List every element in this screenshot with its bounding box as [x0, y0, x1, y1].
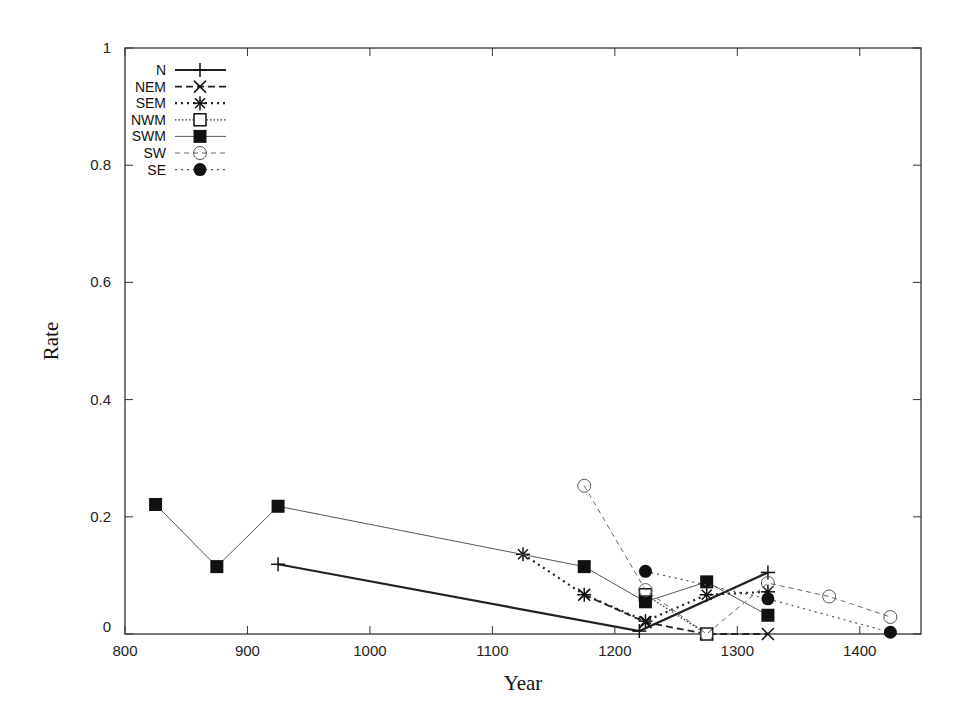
legend-label: NWM — [131, 112, 166, 128]
data-point — [761, 609, 774, 622]
data-point — [884, 611, 897, 624]
data-point — [272, 500, 285, 513]
legend-item-sem: SEM — [136, 95, 226, 111]
data-point — [823, 590, 836, 603]
series-line — [278, 564, 768, 631]
data-point — [639, 595, 652, 608]
y-tick-label: 0.4 — [90, 391, 111, 408]
legend-label: SW — [143, 145, 166, 161]
legend-marker — [194, 114, 206, 126]
x-tick-label: 1100 — [476, 642, 508, 659]
y-tick-label: 0.6 — [90, 273, 111, 290]
legend-item-n: N — [156, 62, 226, 78]
legend-marker — [194, 163, 207, 176]
data-point — [639, 565, 652, 578]
data-point — [701, 628, 713, 640]
data-point — [271, 557, 285, 571]
y-axis-title: Rate — [39, 322, 63, 360]
x-tick-label: 1200 — [598, 642, 631, 659]
x-tick-label: 1300 — [721, 642, 754, 659]
series-sw — [578, 479, 897, 640]
y-tick-label: 0 — [103, 618, 111, 635]
legend-item-sw: SW — [143, 145, 226, 161]
y-tick-label: 0.8 — [90, 156, 111, 173]
x-tick-label: 1000 — [353, 642, 386, 659]
series-line — [523, 554, 768, 621]
y-tick-label: 1 — [103, 39, 111, 56]
legend-marker — [193, 63, 207, 77]
legend: NNEMSEMNWMSWMSWSE — [131, 62, 226, 178]
data-point — [761, 565, 775, 579]
legend-label: N — [156, 62, 166, 78]
data-point — [700, 588, 714, 602]
series-layer — [149, 479, 897, 640]
x-tick-label: 800 — [112, 642, 137, 659]
legend-label: SE — [147, 162, 166, 178]
data-point — [761, 592, 774, 605]
legend-item-nem: NEM — [135, 79, 226, 95]
legend-label: NEM — [135, 79, 166, 95]
plot-frame — [125, 48, 921, 634]
legend-item-swm: SWM — [132, 128, 226, 144]
legend-item-se: SE — [147, 162, 226, 178]
data-point — [638, 614, 652, 628]
legend-label: SWM — [132, 128, 166, 144]
data-point — [884, 626, 897, 639]
data-point — [578, 560, 591, 573]
series-line — [645, 595, 706, 634]
legend-marker — [194, 81, 206, 93]
y-tick-label: 0.2 — [90, 508, 111, 525]
series-line — [584, 486, 890, 634]
line-chart: 8009001000110012001300140000.20.40.60.81… — [0, 0, 966, 725]
data-point — [149, 498, 162, 511]
legend-marker — [193, 96, 207, 110]
legend-label: SEM — [136, 95, 166, 111]
data-point — [577, 588, 591, 602]
x-axis-title: Year — [504, 671, 543, 695]
x-tick-label: 900 — [235, 642, 260, 659]
x-tick-label: 1400 — [843, 642, 876, 659]
legend-item-nwm: NWM — [131, 112, 226, 128]
series-swm — [149, 498, 774, 622]
legend-marker — [194, 130, 207, 143]
data-point — [210, 560, 223, 573]
data-point — [632, 624, 646, 638]
